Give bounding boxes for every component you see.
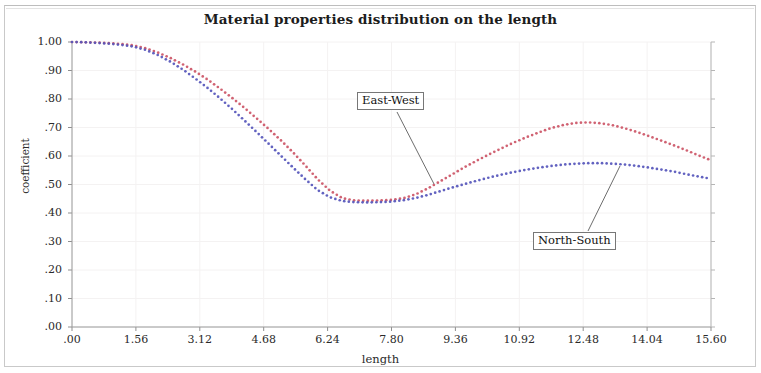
x-tick-label: 14.04 <box>619 333 675 346</box>
y-tick-label: .90 <box>22 64 62 77</box>
y-tick-label: .10 <box>22 292 62 305</box>
x-tick-label: 10.92 <box>491 333 547 346</box>
x-tick-label: 4.68 <box>236 333 292 346</box>
y-tick-label: .20 <box>22 263 62 276</box>
x-tick-label: 15.60 <box>683 333 739 346</box>
y-tick-label: .30 <box>22 235 62 248</box>
series-north-south <box>71 41 708 204</box>
x-tick-label: 9.36 <box>427 333 483 346</box>
x-tick-label: .00 <box>44 333 100 346</box>
chart-page: Material properties distribution on the … <box>0 0 761 373</box>
plot-area <box>0 0 761 373</box>
north-south-leader-line <box>588 166 620 231</box>
x-tick-label: 7.80 <box>364 333 420 346</box>
y-axis-title: coefficient <box>19 121 31 211</box>
x-tick-label: 3.12 <box>172 333 228 346</box>
east-west-leader-line <box>397 112 434 184</box>
y-tick-label: .00 <box>22 320 62 333</box>
y-tick-label: .80 <box>22 92 62 105</box>
series-label-east-west: East-West <box>357 92 424 110</box>
x-tick-label: 1.56 <box>108 333 164 346</box>
x-tick-label: 12.48 <box>555 333 611 346</box>
series-label-north-south: North-South <box>533 232 616 250</box>
y-tick-label: 1.00 <box>22 35 62 48</box>
gridlines <box>72 42 711 327</box>
x-axis-title: length <box>0 352 761 366</box>
x-tick-label: 6.24 <box>300 333 356 346</box>
